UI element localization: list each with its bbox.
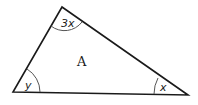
region-label: A: [76, 54, 87, 69]
angle-arc-bottom-right: [154, 78, 158, 94]
angle-label-top: 3x: [61, 17, 75, 30]
angle-label-bottom-left: y: [24, 79, 32, 92]
triangle-diagram: 3x y x A: [0, 0, 198, 105]
angle-label-bottom-right: x: [159, 81, 167, 94]
